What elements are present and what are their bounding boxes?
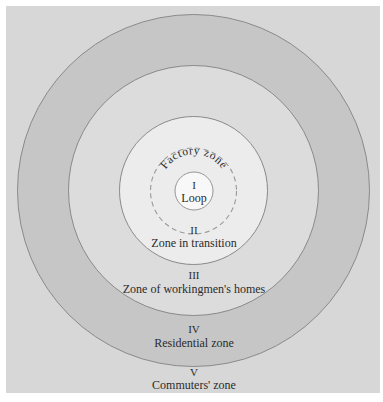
zone-i-numeral: I [192,179,196,191]
zone-v-numeral: V [190,366,198,378]
zone-v-label: Commuters' zone [152,378,236,392]
zone-ii-numeral: II [190,224,198,236]
zone-iv-numeral: IV [188,323,200,335]
zone-i-label: Loop [181,191,206,205]
zone-iii-numeral: III [189,269,200,281]
zone-iv-label: Residential zone [154,336,234,350]
concentric-zone-diagram: Factory zone I Loop II Zone in transitio… [0,0,383,402]
zone-ii-label: Zone in transition [151,236,236,250]
zone-iii-label: Zone of workingmen's homes [123,282,266,296]
